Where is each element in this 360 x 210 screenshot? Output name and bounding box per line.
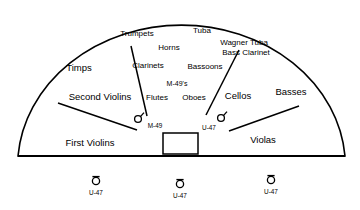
orchestra-seating-diagram: Timps Trumpets Tuba Horns Wagner Tuba Ba… bbox=[0, 0, 360, 210]
conductor-podium bbox=[163, 133, 198, 154]
u47-center-mic-icon[interactable] bbox=[176, 180, 183, 188]
front-microphone-icons bbox=[92, 176, 274, 188]
u47-left-mic-icon[interactable] bbox=[92, 177, 99, 185]
u47-right-mic-icon[interactable] bbox=[267, 176, 274, 184]
stage-drawing bbox=[0, 0, 360, 210]
